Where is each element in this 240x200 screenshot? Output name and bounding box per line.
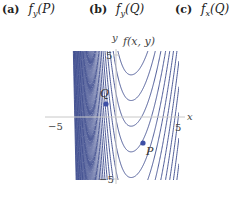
- x-axis-label: x: [187, 111, 193, 122]
- point-p[interactable]: [140, 140, 145, 145]
- y-tick-label-max: 5: [106, 50, 112, 61]
- point-p-label: P: [145, 145, 154, 158]
- point-q-label: Q: [100, 87, 109, 100]
- point-q[interactable]: [103, 101, 108, 106]
- x-tick-label-max: 5: [175, 122, 181, 133]
- y-tick-label-min: −5: [99, 174, 114, 185]
- contour-plot: y f(x, y) x 5 −5 −5 5 Q P: [0, 0, 240, 200]
- plot-title: f(x, y): [122, 35, 155, 48]
- contour-lines: [73, 30, 179, 200]
- y-axis-label: y: [111, 32, 118, 43]
- x-tick-label-min: −5: [48, 121, 63, 132]
